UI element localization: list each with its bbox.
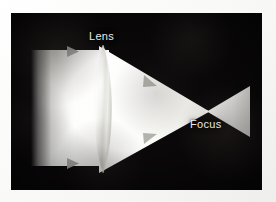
converging-beam [99, 46, 207, 173]
focus-label: Focus [190, 119, 221, 130]
figure-stage: Lens Focus [0, 0, 276, 202]
lens-label: Lens [89, 31, 114, 42]
optics-diagram-panel: Lens Focus [11, 13, 262, 190]
focal-point [206, 110, 209, 113]
optics-svg [11, 13, 262, 190]
